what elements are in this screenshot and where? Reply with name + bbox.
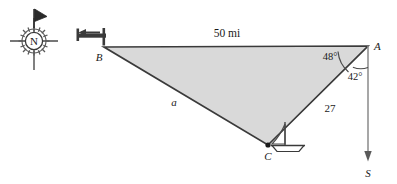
vertex-label-c: C bbox=[264, 150, 272, 162]
vertex-label-a: A bbox=[373, 40, 381, 52]
navigation-triangle-figure: N S 50 mi 48° 42° 27 a A B C bbox=[0, 0, 397, 184]
angle-label-42: 42° bbox=[348, 71, 363, 82]
ship-icon bbox=[77, 28, 107, 46]
side-label-bc: a bbox=[171, 96, 177, 108]
side-label-ab: 50 mi bbox=[214, 27, 241, 39]
south-label: S bbox=[365, 167, 371, 179]
sailboat-hull bbox=[272, 146, 304, 152]
angle-arc-42 bbox=[353, 67, 368, 69]
vertex-label-b: B bbox=[96, 51, 103, 63]
north-flag-icon bbox=[35, 9, 47, 22]
compass-rose-icon: N bbox=[10, 9, 58, 70]
vertex-point-c bbox=[265, 142, 270, 147]
compass-north-label: N bbox=[30, 35, 38, 47]
ship-mast-left bbox=[77, 29, 80, 42]
ship-mast-right bbox=[103, 28, 106, 46]
angle-label-48: 48° bbox=[323, 51, 338, 62]
side-label-ac: 27 bbox=[325, 102, 337, 114]
south-arrowhead-icon bbox=[364, 151, 371, 162]
